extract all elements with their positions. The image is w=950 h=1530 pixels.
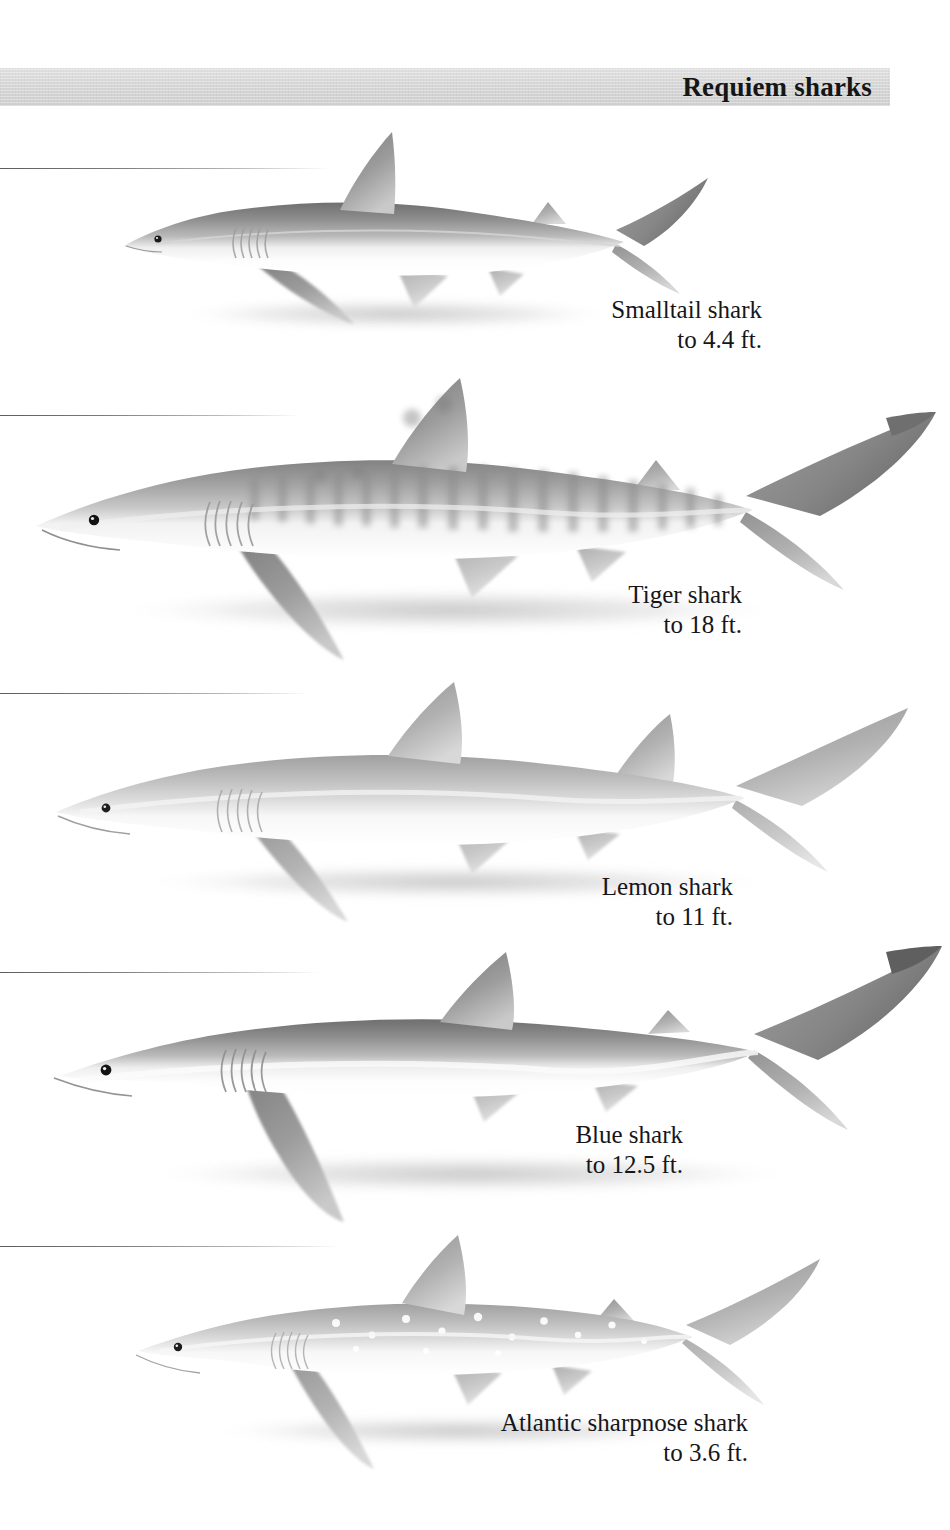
caption-smalltail-shark: Smalltail shark to 4.4 ft. — [611, 295, 762, 354]
caption-size: to 3.6 ft. — [501, 1438, 748, 1468]
page-header-band: Requiem sharks — [0, 68, 890, 106]
caption-atlantic-sharpnose-shark: Atlantic sharpnose shark to 3.6 ft. — [501, 1408, 748, 1467]
caption-name: Blue shark — [575, 1120, 683, 1150]
caption-name: Atlantic sharpnose shark — [501, 1408, 748, 1438]
caption-name: Lemon shark — [602, 872, 733, 902]
plate-blue-shark — [40, 930, 950, 1230]
caption-tiger-shark: Tiger shark to 18 ft. — [628, 580, 742, 639]
page-title: Requiem sharks — [682, 72, 890, 103]
blue-shark-illustration — [40, 930, 950, 1230]
caption-blue-shark: Blue shark to 12.5 ft. — [575, 1120, 683, 1179]
caption-size: to 18 ft. — [628, 610, 742, 640]
tiger-shark-illustration — [20, 360, 945, 670]
caption-size: to 11 ft. — [602, 902, 733, 932]
plate-tiger-shark — [20, 360, 945, 670]
plate-lemon-shark — [36, 660, 926, 930]
caption-lemon-shark: Lemon shark to 11 ft. — [602, 872, 733, 931]
lemon-shark-illustration — [36, 660, 926, 930]
caption-name: Smalltail shark — [611, 295, 762, 325]
caption-size: to 12.5 ft. — [575, 1150, 683, 1180]
caption-size: to 4.4 ft. — [611, 325, 762, 355]
caption-name: Tiger shark — [628, 580, 742, 610]
